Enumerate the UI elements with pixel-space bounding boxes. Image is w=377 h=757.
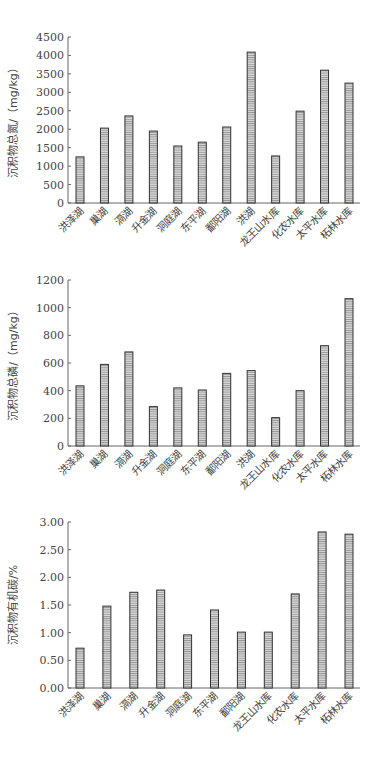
- x-category-label: 巢湖: [87, 205, 110, 228]
- bar: [125, 352, 133, 446]
- y-tick-label: 3.00: [40, 516, 65, 529]
- y-tick-label: 2000: [36, 123, 64, 136]
- x-category-label: 升金湖: [129, 205, 159, 235]
- x-category-label: 东平湖: [190, 690, 220, 720]
- y-tick-label: 4500: [36, 31, 64, 44]
- bar: [103, 606, 111, 688]
- bar: [264, 632, 272, 688]
- bar: [318, 532, 326, 688]
- bar: [321, 70, 329, 203]
- bar: [272, 156, 280, 203]
- x-category-label: 洞庭湖: [154, 205, 184, 235]
- y-tick-label: 1.00: [40, 627, 65, 640]
- y-tick-label: 3500: [36, 68, 64, 81]
- bar: [211, 610, 219, 688]
- y-tick-label: 500: [43, 179, 64, 192]
- bar: [247, 371, 255, 446]
- y-tick-label: 800: [43, 329, 64, 342]
- y-tick-label: 600: [43, 357, 64, 370]
- bar: [174, 146, 182, 203]
- x-category-label: 巢湖: [90, 690, 113, 713]
- bar: [291, 594, 299, 688]
- bar: [100, 128, 108, 203]
- bar: [321, 346, 329, 446]
- bar: [76, 157, 84, 203]
- bar: [149, 131, 157, 203]
- x-category-label: 洞庭湖: [154, 448, 184, 478]
- y-tick-label: 400: [43, 385, 64, 398]
- y-tick-label: 1200: [36, 274, 64, 287]
- x-category-label: 升金湖: [136, 690, 166, 720]
- y-tick-label: 2.50: [40, 544, 65, 557]
- bar: [345, 299, 353, 446]
- y-tick-label: 0.00: [40, 682, 65, 695]
- bar: [149, 407, 157, 446]
- y-axis-title: 沉积物总氮/（mg/kg）: [6, 62, 20, 177]
- x-category-label: 洞庭湖: [163, 690, 193, 720]
- bar: [198, 142, 206, 203]
- y-tick-label: 0: [57, 440, 64, 453]
- y-tick-label: 0: [57, 197, 64, 210]
- bar: [296, 111, 304, 203]
- y-tick-label: 200: [43, 412, 64, 425]
- bar-chart-svg: 050010001500200025003000350040004500沉积物总…: [0, 0, 377, 757]
- y-axis-title: 沉积物总磷/（mg/kg）: [6, 305, 20, 420]
- x-category-label: 升金湖: [129, 448, 159, 478]
- y-tick-label: 2.00: [40, 571, 65, 584]
- chart-total-phosphorus: 020040060080010001200沉积物总磷/（mg/kg）洪泽湖巢湖滆…: [6, 274, 360, 492]
- x-category-label: 东平湖: [178, 448, 208, 478]
- bar: [272, 418, 280, 446]
- y-tick-label: 3000: [36, 86, 64, 99]
- bar: [345, 534, 353, 688]
- bar: [184, 635, 192, 688]
- bar: [76, 386, 84, 446]
- y-tick-label: 0.50: [40, 654, 65, 667]
- y-tick-label: 1000: [36, 302, 64, 315]
- y-tick-label: 4000: [36, 49, 64, 62]
- bar: [76, 648, 84, 688]
- bar: [174, 388, 182, 446]
- x-category-label: 东平湖: [178, 205, 208, 235]
- bar: [223, 373, 231, 446]
- bar: [296, 391, 304, 446]
- chart-organic-carbon: 0.000.501.001.502.002.503.00沉积物有机碳/%洪泽湖巢…: [6, 516, 360, 734]
- y-axis-title: 沉积物有机碳/%: [6, 565, 20, 645]
- bar: [247, 52, 255, 203]
- bar: [157, 590, 165, 688]
- bar: [130, 592, 138, 688]
- bar: [223, 127, 231, 203]
- bar: [198, 390, 206, 446]
- bar: [345, 83, 353, 203]
- y-tick-label: 1000: [36, 160, 64, 173]
- chart-sediment-total-nitrogen: 050010001500200025003000350040004500沉积物总…: [0, 0, 377, 757]
- x-category-label: 鄱阳湖: [202, 448, 232, 478]
- bar: [237, 632, 245, 688]
- y-tick-label: 2500: [36, 105, 64, 118]
- y-tick-label: 1.50: [40, 599, 65, 612]
- chart-total-nitrogen: 050010001500200025003000350040004500沉积物总…: [6, 31, 360, 249]
- x-category-label: 巢湖: [87, 448, 110, 471]
- bar: [100, 364, 108, 446]
- bar: [125, 116, 133, 203]
- x-category-label: 鄱阳湖: [202, 205, 232, 235]
- x-category-label: 滆湖: [117, 690, 140, 713]
- y-tick-label: 1500: [36, 142, 64, 155]
